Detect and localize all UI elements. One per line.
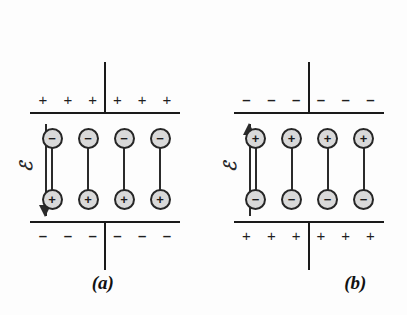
ion-glyph: − [324,193,332,206]
ion-bottom: − [353,189,374,210]
ion-top: − [114,128,135,149]
ion-glyph: + [48,193,56,206]
ion-bottom: − [245,189,266,210]
panel-b: – – – – – – ℰ + − + − [204,0,407,315]
ion-glyph: − [120,132,128,145]
field-label-b: ℰ [219,153,240,181]
capacitor-plate-top-b [234,112,384,114]
ion-glyph: + [156,193,164,206]
panel-caption-a: (a) [0,272,204,294]
charge-sign: – [86,228,100,243]
charge-sign: + [36,92,50,107]
charge-sign: + [86,92,100,107]
charge-sign: + [314,228,328,243]
charge-sign: + [61,92,75,107]
ion-top: − [42,128,63,149]
top-plate-charges-b: – – – – – – [234,90,384,108]
ion-glyph: + [360,132,368,145]
ion-top: − [150,128,171,149]
panel-a: + + + + + + ℰ − + − + [0,0,204,315]
capacitor-plate-top-a [30,112,180,114]
charge-sign: – [110,228,124,243]
ion-top: + [317,128,338,149]
charge-sign: – [339,92,353,107]
lead-wire-bottom-a [104,222,106,270]
ion-glyph: − [48,132,56,145]
dipole: − + [76,128,100,210]
ion-bottom: + [42,189,63,210]
dipole: − + [40,128,64,210]
polarization-figure: + + + + + + ℰ − + − + [0,0,407,315]
dipole: + − [352,128,376,210]
ion-glyph: − [156,132,164,145]
charge-sign: – [314,92,328,107]
charge-sign: + [363,228,377,243]
ion-top: + [353,128,374,149]
panel-caption-b: (b) [204,272,407,294]
ion-glyph: − [252,193,260,206]
charge-sign: + [240,228,254,243]
charge-sign: – [61,228,75,243]
charge-sign: – [363,92,377,107]
charge-sign: + [135,92,149,107]
dipole: + − [316,128,340,210]
lead-wire-bottom-b [308,222,310,270]
charge-sign: – [135,228,149,243]
charge-sign: – [240,92,254,107]
charge-sign: + [339,228,353,243]
ion-top: − [78,128,99,149]
ion-bottom: − [317,189,338,210]
charge-sign: + [160,92,174,107]
top-plate-charges-a: + + + + + + [30,90,180,108]
field-label-a: ℰ [16,153,37,181]
charge-sign: – [36,228,50,243]
dipole: + − [280,128,304,210]
ion-glyph: + [84,193,92,206]
ion-bottom: + [114,189,135,210]
ion-top: + [281,128,302,149]
ion-glyph: + [324,132,332,145]
charge-sign: – [160,228,174,243]
ion-glyph: + [252,132,260,145]
ion-bottom: + [78,189,99,210]
dipole: + − [244,128,268,210]
ion-glyph: − [360,193,368,206]
ion-bottom: − [281,189,302,210]
dipole-row-b: + − + − + − + − [244,128,376,210]
ion-glyph: + [288,132,296,145]
dipole-row-a: − + − + − + − + [40,128,172,210]
charge-sign: + [110,92,124,107]
ion-glyph: − [288,193,296,206]
charge-sign: + [264,228,278,243]
dipole: − + [148,128,172,210]
charge-sign: + [289,228,303,243]
dipole: − + [112,128,136,210]
ion-bottom: + [150,189,171,210]
ion-glyph: − [84,132,92,145]
ion-glyph: + [120,193,128,206]
charge-sign: – [289,92,303,107]
ion-top: + [245,128,266,149]
charge-sign: – [264,92,278,107]
